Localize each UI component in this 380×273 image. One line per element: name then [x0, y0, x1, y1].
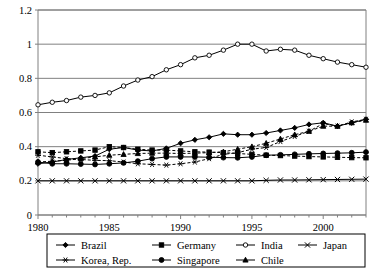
data-point-circle-open — [136, 78, 140, 82]
data-point-circle-open — [36, 103, 40, 107]
series-line — [38, 44, 366, 105]
data-point-circle-open — [164, 68, 168, 72]
series-line — [38, 152, 366, 164]
data-point-circle — [264, 153, 269, 158]
data-point-star — [163, 163, 169, 168]
data-point-circle-open — [350, 62, 354, 66]
legend-label: Singapore — [177, 255, 220, 266]
data-point-diamond — [192, 137, 197, 142]
data-point-square — [64, 150, 68, 154]
y-tick-label: 0.8 — [19, 73, 32, 84]
data-point-diamond — [207, 135, 212, 140]
data-point-diamond — [221, 131, 226, 136]
data-point-circle-open — [221, 48, 225, 52]
series-line — [38, 120, 366, 162]
data-point-circle — [235, 155, 240, 160]
x-tick-label: 1985 — [99, 222, 120, 233]
data-point-circle — [306, 151, 311, 156]
series-japan — [35, 177, 368, 184]
data-point-diamond — [264, 130, 269, 135]
data-point-square — [350, 155, 354, 159]
data-point-circle-open — [178, 62, 182, 66]
data-point-star — [149, 162, 155, 167]
data-point-circle — [349, 150, 354, 155]
data-point-circle — [207, 155, 212, 160]
data-point-circle-open — [121, 84, 125, 88]
data-point-circle-open — [364, 65, 368, 69]
legend: BrazilGermanyIndiaJapanKorea, Rep.Singap… — [47, 234, 365, 267]
chart-container: 00.20.40.60.811.219801985199019952000Bra… — [0, 0, 380, 273]
data-point-circle-open — [107, 91, 111, 95]
data-point-circle-open — [193, 56, 197, 60]
data-point-circle-open — [243, 243, 247, 247]
series-line — [38, 119, 366, 165]
y-tick-label: 0.6 — [19, 107, 32, 118]
data-point-star — [192, 160, 198, 165]
data-point-square — [79, 149, 83, 153]
data-point-circle — [321, 151, 326, 156]
data-point-star — [178, 161, 184, 166]
y-tick-label: 0 — [27, 210, 32, 221]
data-point-circle — [364, 150, 369, 155]
data-point-diamond — [278, 128, 283, 133]
data-point-circle-open — [250, 42, 254, 46]
data-point-circle — [249, 154, 254, 159]
data-point-circle — [292, 152, 297, 157]
data-point-circle-open — [150, 74, 154, 78]
x-tick-label: 1980 — [28, 222, 49, 233]
data-point-circle-open — [278, 47, 282, 51]
data-point-circle — [335, 151, 340, 156]
legend-label: Brazil — [81, 240, 107, 251]
data-point-diamond — [292, 125, 297, 130]
x-tick-label: 1990 — [170, 222, 191, 233]
y-gridlines: 00.20.40.60.811.2 — [19, 5, 366, 221]
data-point-circle-open — [321, 56, 325, 60]
legend-label: Chile — [261, 255, 284, 266]
series-india — [36, 42, 368, 107]
line-chart: 00.20.40.60.811.219801985199019952000Bra… — [0, 0, 380, 273]
data-point-circle-open — [93, 93, 97, 97]
data-point-circle-open — [79, 95, 83, 99]
data-point-circle-open — [207, 53, 211, 57]
series-line — [38, 147, 366, 158]
x-tick-label: 1995 — [241, 222, 262, 233]
data-point-circle — [78, 162, 83, 167]
data-point-circle-open — [50, 100, 54, 104]
data-point-circle — [121, 160, 126, 165]
y-tick-label: 0.4 — [19, 141, 33, 152]
series-korea-rep — [35, 117, 369, 168]
legend-label: Germany — [177, 240, 217, 251]
data-point-diamond — [178, 141, 183, 146]
legend-label: Japan — [323, 240, 348, 251]
data-point-circle-open — [335, 60, 339, 64]
data-point-diamond — [235, 132, 240, 137]
data-point-circle-open — [307, 53, 311, 57]
x-tick-label: 2000 — [313, 222, 334, 233]
data-point-square — [93, 148, 97, 152]
data-point-circle-open — [292, 48, 296, 52]
data-point-circle — [150, 156, 155, 161]
data-point-circle-open — [235, 42, 239, 46]
data-point-circle-open — [264, 49, 268, 53]
legend-label: India — [261, 240, 283, 251]
y-tick-label: 0.2 — [19, 175, 32, 186]
data-point-square — [50, 150, 54, 154]
y-tick-label: 1 — [27, 39, 32, 50]
data-point-triangle — [107, 152, 112, 157]
x-ticks: 19801985199019952000 — [28, 215, 367, 233]
data-point-circle — [107, 161, 112, 166]
data-point-square — [107, 144, 111, 148]
data-point-circle — [221, 155, 226, 160]
data-point-circle — [159, 258, 164, 263]
data-point-square — [121, 145, 125, 149]
data-point-diamond — [306, 122, 311, 127]
data-point-circle — [93, 162, 98, 167]
data-point-square — [159, 243, 163, 247]
data-point-circle-open — [64, 98, 68, 102]
data-point-diamond — [249, 132, 254, 137]
y-tick-label: 1.2 — [19, 5, 32, 16]
data-point-square — [364, 156, 368, 160]
data-point-circle — [278, 152, 283, 157]
legend-label: Korea, Rep. — [81, 255, 131, 266]
data-point-circle — [135, 159, 140, 164]
